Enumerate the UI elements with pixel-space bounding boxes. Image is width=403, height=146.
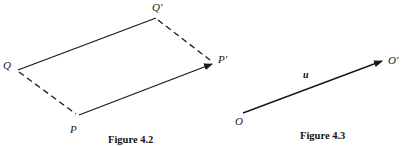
edge-q-to-p [19, 72, 76, 114]
edge-qprime-to-pprime [158, 20, 210, 60]
figure-caption-4-3: Figure 4.3 [300, 131, 345, 142]
vertex-label-o: O [235, 116, 243, 127]
edge-p-to-pprime [79, 64, 212, 115]
vertex-label-p-prime: P′ [218, 54, 227, 65]
figure-4-2-shape [18, 18, 212, 115]
vector-label-u: u [303, 70, 309, 80]
edge-q-to-qprime [18, 18, 156, 70]
vertex-label-q-prime: Q′ [152, 2, 162, 13]
figure-4-3-shape [243, 61, 382, 113]
vertex-label-p: P [70, 124, 77, 135]
vector-o-to-oprime [243, 61, 382, 113]
vertex-label-q: Q [3, 60, 11, 71]
figure-page: Q Q′ P P′ O O′ u Figure 4.2 Figure 4.3 [0, 0, 403, 146]
figure-canvas [0, 0, 403, 146]
vertex-label-o-prime: O′ [388, 55, 398, 66]
figure-caption-4-2: Figure 4.2 [108, 135, 153, 146]
